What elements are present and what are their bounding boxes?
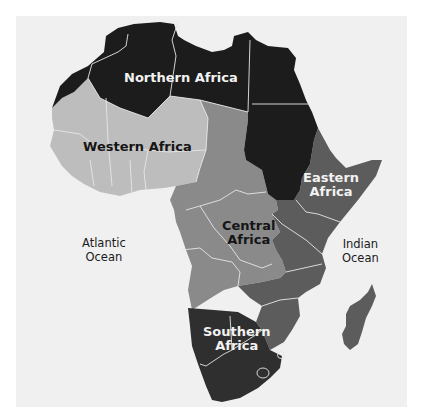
label-eastern-line1: Eastern (303, 171, 359, 185)
atlantic-line2: Ocean (82, 250, 126, 264)
label-western-africa: Western Africa (83, 140, 192, 154)
label-southern-line1: Southern (203, 325, 271, 339)
label-eastern-line2: Africa (303, 185, 359, 199)
label-northern-africa: Northern Africa (124, 71, 238, 85)
label-central-line2: Africa (222, 233, 275, 247)
indian-line2: Ocean (342, 251, 379, 265)
label-atlantic-ocean: Atlantic Ocean (82, 236, 126, 264)
label-southern-line2: Africa (203, 339, 271, 353)
label-central-africa: Central Africa (222, 219, 275, 247)
indian-line1: Indian (342, 237, 379, 251)
label-eastern-africa: Eastern Africa (303, 171, 359, 199)
atlantic-line1: Atlantic (82, 236, 126, 250)
label-indian-ocean: Indian Ocean (342, 237, 379, 265)
label-southern-africa: Southern Africa (203, 325, 271, 353)
africa-map (0, 0, 426, 419)
label-central-line1: Central (222, 219, 275, 233)
madagascar[interactable] (342, 284, 376, 350)
